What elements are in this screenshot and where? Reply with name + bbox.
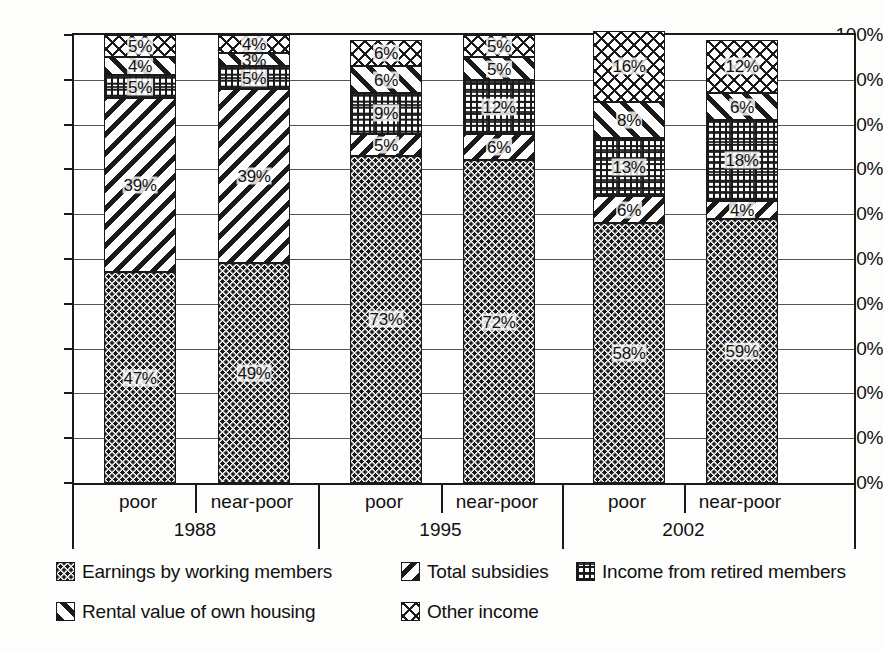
- legend-label: Earnings by working members: [82, 562, 332, 581]
- bar-segment-label: 39%: [123, 177, 158, 194]
- legend-row: Rental value of own housingOther income: [56, 596, 856, 626]
- bar-segment-label: 6%: [373, 71, 399, 88]
- legend-label: Other income: [427, 602, 539, 621]
- bar-segment-label: 39%: [237, 168, 272, 185]
- legend-swatch-zigzag-icon: [401, 602, 420, 621]
- bar-segment-label: 72%: [482, 313, 517, 330]
- bar-2002-poor: 58%6%13%8%16%: [593, 35, 665, 483]
- bar-segment-slash-hatch: 6%: [706, 93, 778, 120]
- bar-segment-backslash-hatch: 5%: [350, 134, 422, 156]
- legend-swatch-backslash-hatch-icon: [401, 562, 420, 581]
- legend-swatch-slash-hatch-icon: [56, 602, 75, 621]
- bar-segment-stipple-dots: 59%: [706, 219, 778, 483]
- x-axis-group-label: 1995: [371, 519, 511, 541]
- bar-segment-stipple-dots: 73%: [350, 156, 422, 483]
- bar-segment-backslash-hatch: 39%: [104, 98, 176, 273]
- bar-segment-label: 4%: [729, 201, 755, 218]
- bar-segment-label: 5%: [127, 78, 153, 95]
- legend-swatch-stipple-dots-icon: [56, 562, 75, 581]
- legend-label: Rental value of own housing: [82, 602, 315, 621]
- bar-1995-near-poor: 72%6%12%5%5%: [463, 35, 535, 483]
- bar-segment-label: 6%: [616, 201, 642, 218]
- legend-item[interactable]: Rental value of own housing: [56, 596, 315, 626]
- legend-item[interactable]: Earnings by working members: [56, 556, 332, 586]
- x-axis-category-label: near-poor: [182, 491, 322, 513]
- bar-segment-label: 5%: [486, 60, 512, 77]
- x-axis-major-separator: [318, 485, 320, 549]
- bar-segment-label: 47%: [123, 369, 158, 386]
- chart-legend: Earnings by working membersTotal subsidi…: [56, 556, 856, 628]
- bar-segment-label: 8%: [616, 112, 642, 129]
- x-axis-category-label: near-poor: [427, 491, 567, 513]
- bar-segment-dotted-grid: 18%: [706, 120, 778, 201]
- bar-segment-dotted-grid: 9%: [350, 93, 422, 133]
- bar-1988-poor: 47%39%5%4%5%: [104, 35, 176, 483]
- bar-segment-dotted-grid: 5%: [218, 66, 290, 88]
- bar-segment-stipple-dots: 47%: [104, 272, 176, 483]
- bar-segment-stipple-dots: 58%: [593, 223, 665, 483]
- legend-swatch-dotted-grid-icon: [576, 562, 595, 581]
- stacked-bar-chart: 0%10%20%30%40%50%60%70%80%90%100% 47%39%…: [0, 0, 883, 651]
- bar-segment-zigzag: 16%: [593, 31, 665, 103]
- bar-segment-label: 18%: [725, 152, 760, 169]
- bar-segment-backslash-hatch: 4%: [706, 201, 778, 219]
- bar-segment-slash-hatch: 8%: [593, 102, 665, 138]
- bar-segment-label: 5%: [127, 38, 153, 55]
- legend-item[interactable]: Other income: [401, 596, 539, 626]
- bar-segment-backslash-hatch: 6%: [463, 134, 535, 161]
- bar-segment-label: 5%: [373, 136, 399, 153]
- bar-segment-label: 5%: [486, 38, 512, 55]
- bar-segment-label: 16%: [612, 58, 647, 75]
- bar-segment-label: 9%: [373, 105, 399, 122]
- bar-segment-label: 5%: [241, 69, 267, 86]
- bar-2002-near-poor: 59%4%18%6%12%: [706, 35, 778, 483]
- x-axis-minor-separator: [684, 485, 686, 513]
- x-axis-major-separator: [562, 485, 564, 549]
- x-axis-end-separator: [72, 485, 74, 549]
- bar-segment-stipple-dots: 49%: [218, 263, 290, 483]
- plot-area: 47%39%5%4%5%49%39%5%3%4%73%5%9%6%6%72%6%…: [72, 33, 856, 485]
- bar-segment-label: 4%: [241, 35, 267, 52]
- bar-segment-slash-hatch: 4%: [104, 57, 176, 75]
- bar-segment-label: 49%: [237, 365, 272, 382]
- bar-segment-label: 13%: [612, 159, 647, 176]
- bar-segment-slash-hatch: 5%: [463, 57, 535, 79]
- legend-item[interactable]: Total subsidies: [401, 556, 549, 586]
- bar-segment-label: 6%: [486, 139, 512, 156]
- x-axis-end-separator: [854, 485, 856, 549]
- bar-segment-zigzag: 5%: [104, 35, 176, 57]
- bar-segment-dotted-grid: 5%: [104, 75, 176, 97]
- legend-row: Earnings by working membersTotal subsidi…: [56, 556, 856, 586]
- bar-segment-label: 73%: [369, 311, 404, 328]
- bar-segment-slash-hatch: 6%: [350, 66, 422, 93]
- legend-label: Total subsidies: [427, 562, 549, 581]
- x-axis-minor-separator: [195, 485, 197, 513]
- bar-segment-zigzag: 12%: [706, 40, 778, 94]
- bar-segment-backslash-hatch: 6%: [593, 196, 665, 223]
- x-axis-minor-separator: [441, 485, 443, 513]
- bar-segment-zigzag: 4%: [218, 35, 290, 53]
- bar-segment-zigzag: 5%: [463, 35, 535, 57]
- bar-segment-dotted-grid: 13%: [593, 138, 665, 196]
- bar-1995-poor: 73%5%9%6%6%: [350, 35, 422, 483]
- bar-segment-label: 4%: [127, 58, 153, 75]
- bar-segment-zigzag: 6%: [350, 40, 422, 67]
- bar-1988-near-poor: 49%39%5%3%4%: [218, 35, 290, 483]
- bar-segment-slash-hatch: 3%: [218, 53, 290, 66]
- x-axis: poornear-poorpoornear-poorpoornear-poor1…: [72, 485, 856, 551]
- x-axis-category-label: near-poor: [670, 491, 810, 513]
- bar-segment-dotted-grid: 12%: [463, 80, 535, 134]
- bar-segment-label: 12%: [482, 98, 517, 115]
- bar-segment-stipple-dots: 72%: [463, 160, 535, 483]
- bar-segment-label: 3%: [241, 53, 267, 66]
- bar-segment-label: 6%: [729, 98, 755, 115]
- bar-segment-label: 6%: [373, 44, 399, 61]
- bar-segment-backslash-hatch: 39%: [218, 89, 290, 264]
- bars-layer: 47%39%5%4%5%49%39%5%3%4%73%5%9%6%6%72%6%…: [74, 35, 854, 483]
- x-axis-group-label: 1988: [125, 519, 265, 541]
- x-axis-group-label: 2002: [614, 519, 754, 541]
- bar-segment-label: 58%: [612, 345, 647, 362]
- legend-item[interactable]: Income from retired members: [576, 556, 846, 586]
- bar-segment-label: 59%: [725, 342, 760, 359]
- bar-segment-label: 12%: [725, 58, 760, 75]
